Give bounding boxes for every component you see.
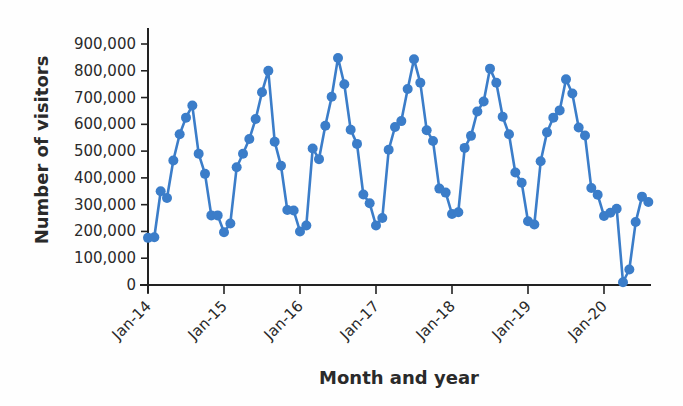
x-tick-label: Jan-17 <box>336 297 383 344</box>
y-tick-label: 300,000 <box>74 196 136 214</box>
data-point <box>422 125 432 135</box>
data-point <box>327 92 337 102</box>
data-point <box>346 125 356 135</box>
data-point <box>517 178 527 188</box>
data-point <box>213 210 223 220</box>
y-axis-title: Number of visitors <box>31 56 52 245</box>
data-point <box>631 217 641 227</box>
data-point <box>308 143 318 153</box>
x-axis: Jan-14Jan-15Jan-16Jan-17Jan-18Jan-19Jan-… <box>108 285 651 344</box>
x-tick-label: Jan-16 <box>260 297 307 344</box>
data-point <box>263 66 273 76</box>
y-axis: 0100,000200,000300,000400,000500,000600,… <box>74 28 148 294</box>
data-point <box>175 129 185 139</box>
data-point <box>377 213 387 223</box>
data-point <box>403 84 413 94</box>
data-point <box>472 106 482 116</box>
x-tick-label: Jan-18 <box>412 297 459 344</box>
data-point <box>352 139 362 149</box>
x-tick-label: Jan-14 <box>108 297 155 344</box>
y-tick-label: 100,000 <box>74 249 136 267</box>
data-point <box>580 131 590 141</box>
data-point <box>529 219 539 229</box>
data-point <box>510 168 520 178</box>
data-point <box>555 105 565 115</box>
data-point <box>453 207 463 217</box>
y-tick-label: 800,000 <box>74 62 136 80</box>
visitors-series <box>143 53 653 287</box>
x-tick-label: Jan-15 <box>184 297 231 344</box>
data-point <box>384 145 394 155</box>
data-point <box>181 113 191 123</box>
x-tick-label: Jan-20 <box>564 297 611 344</box>
data-point <box>301 221 311 231</box>
data-point <box>396 116 406 126</box>
data-point <box>574 123 584 133</box>
y-tick-label: 400,000 <box>74 169 136 187</box>
data-point <box>289 206 299 216</box>
data-point <box>618 277 628 287</box>
y-tick-label: 900,000 <box>74 35 136 53</box>
data-point <box>561 74 571 84</box>
data-point <box>244 134 254 144</box>
data-point <box>276 161 286 171</box>
line-chart: 0100,000200,000300,000400,000500,000600,… <box>0 0 683 406</box>
data-point <box>536 156 546 166</box>
data-point <box>428 136 438 146</box>
data-point <box>238 149 248 159</box>
y-tick-label: 600,000 <box>74 115 136 133</box>
data-point <box>270 137 280 147</box>
data-point <box>485 64 495 74</box>
data-point <box>466 131 476 141</box>
data-point <box>460 143 470 153</box>
data-point <box>612 204 622 214</box>
data-point <box>251 114 261 124</box>
data-point <box>542 127 552 137</box>
data-point <box>149 232 159 242</box>
data-point <box>194 149 204 159</box>
x-tick-label: Jan-19 <box>488 297 535 344</box>
data-point <box>232 162 242 172</box>
data-point <box>409 54 419 64</box>
data-point <box>479 97 489 107</box>
y-tick-label: 200,000 <box>74 222 136 240</box>
y-tick-label: 0 <box>126 276 136 294</box>
data-point <box>257 87 267 97</box>
data-point <box>225 218 235 228</box>
data-point <box>498 112 508 122</box>
data-point <box>314 154 324 164</box>
data-point <box>200 169 210 179</box>
data-point <box>415 78 425 88</box>
data-point <box>441 188 451 198</box>
data-point <box>491 78 501 88</box>
data-point <box>162 193 172 203</box>
data-point <box>320 121 330 131</box>
data-point <box>333 53 343 63</box>
data-point <box>168 155 178 165</box>
data-point <box>219 227 229 237</box>
y-tick-label: 500,000 <box>74 142 136 160</box>
data-point <box>624 264 634 274</box>
y-tick-label: 700,000 <box>74 89 136 107</box>
data-point <box>365 198 375 208</box>
data-point <box>643 197 653 207</box>
data-point <box>187 101 197 111</box>
data-point <box>504 129 514 139</box>
data-point <box>339 79 349 89</box>
data-point <box>567 89 577 99</box>
data-point <box>593 190 603 200</box>
x-axis-title: Month and year <box>319 367 479 388</box>
data-point <box>358 189 368 199</box>
